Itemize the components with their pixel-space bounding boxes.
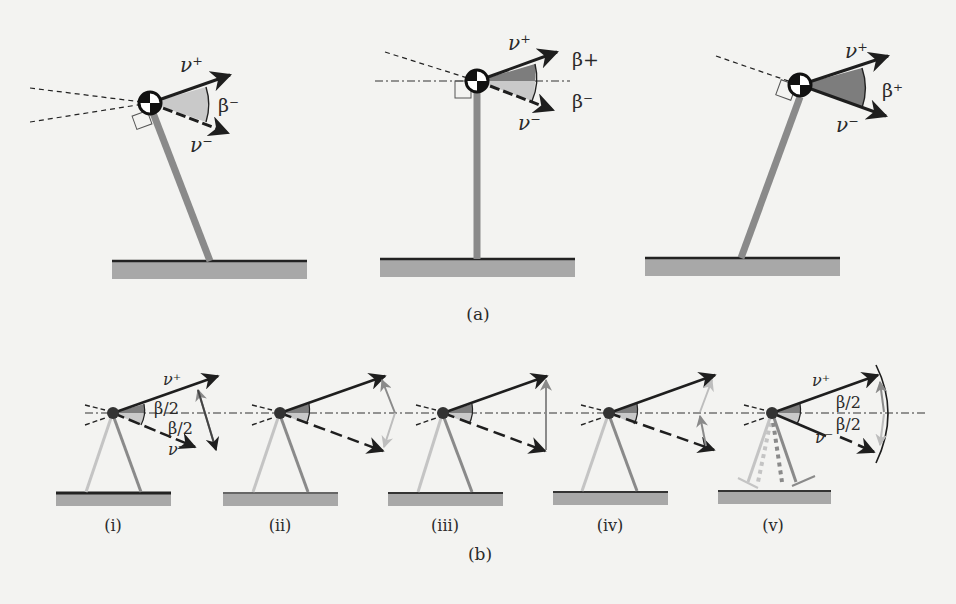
center-of-mass-icon xyxy=(789,74,811,96)
subfigure-b-iii: (iii) xyxy=(388,376,547,535)
leg xyxy=(741,97,800,258)
ground-bar xyxy=(645,258,840,276)
caption-ii: (ii) xyxy=(269,516,292,535)
label-v-plus: ν⁺ xyxy=(845,39,868,63)
ground-bar xyxy=(380,259,575,277)
arc-arrow xyxy=(876,365,888,463)
ground-bar xyxy=(388,492,503,506)
subfigure-a-middle: ν⁺ β+ β⁻ ν⁻ xyxy=(375,31,599,277)
ground-bar xyxy=(223,492,338,506)
label-angle: β⁻ xyxy=(218,94,239,116)
caption-v: (v) xyxy=(762,516,784,535)
subfigure-b-iv: (iv) xyxy=(553,375,715,535)
label-beta-half-lower: β/2 xyxy=(836,415,861,434)
label-v-minus: ν⁻ xyxy=(518,111,541,135)
label-beta-half-upper: β/2 xyxy=(154,399,179,418)
subfigure-b-ii: (ii) xyxy=(223,376,395,535)
diagram-svg: ν⁺ β⁻ ν⁻ ν⁺ β+ β⁻ ν⁻ xyxy=(0,0,956,604)
center-of-mass-icon xyxy=(139,92,161,114)
caption-iii: (iii) xyxy=(431,516,459,535)
ground-bar xyxy=(553,491,668,505)
label-angle: β⁺ xyxy=(882,79,903,101)
ground-bar xyxy=(718,490,831,504)
label-v-minus: ν⁻ xyxy=(815,428,833,447)
label-beta-half-lower: β/2 xyxy=(168,419,193,438)
leg xyxy=(150,105,210,261)
label-v-plus: ν⁺ xyxy=(180,53,203,77)
figure-canvas: ν⁺ β⁻ ν⁻ ν⁺ β+ β⁻ ν⁻ xyxy=(0,0,956,604)
label-v-plus: ν⁺ xyxy=(508,31,531,55)
subfigure-a-right: ν⁺ β⁺ ν⁻ xyxy=(645,39,903,276)
panel-b-caption: (b) xyxy=(468,544,492,564)
subfigure-b-v: ν⁺ β/2 β/2 ν⁻ (v) xyxy=(718,365,888,535)
caption-iv: (iv) xyxy=(597,516,624,535)
label-v-minus: ν⁻ xyxy=(836,113,859,137)
panel-a-caption: (a) xyxy=(466,304,489,324)
subfigure-b-i: ν⁺ β/2 β/2 ν⁻ (i) xyxy=(56,370,218,535)
label-beta-minus: β⁻ xyxy=(572,90,593,112)
label-v-plus: ν⁺ xyxy=(163,370,181,389)
label-v-plus: ν⁺ xyxy=(812,371,830,390)
caption-i: (i) xyxy=(104,516,122,535)
center-of-mass-icon xyxy=(466,70,488,92)
label-v-minus: ν⁻ xyxy=(168,440,186,459)
label-beta-plus: β+ xyxy=(572,48,599,70)
label-beta-half-upper: β/2 xyxy=(836,393,861,412)
subfigure-a-left: ν⁺ β⁻ ν⁻ xyxy=(30,53,307,279)
label-v-minus: ν⁻ xyxy=(190,133,213,157)
ground-bar xyxy=(112,261,307,279)
